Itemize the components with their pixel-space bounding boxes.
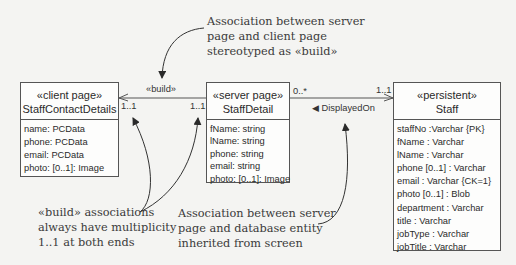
stereotype-label: «server page» — [207, 88, 289, 102]
attribute: email : Varchar {CK=1} — [397, 175, 500, 188]
class-persistent-staff[interactable]: «persistent» Staff staffNo :Varchar {PK}… — [393, 82, 501, 251]
build-multiplicity-server: 1..1 — [190, 101, 206, 111]
attribute-list: name: PCData phone: PCData email: PCData… — [21, 120, 118, 175]
attribute: fName : Varchar — [397, 136, 500, 149]
stereotype-label: «persistent» — [394, 88, 500, 102]
top-note-connector — [162, 28, 204, 78]
attribute: phone: PCData — [24, 136, 118, 149]
note-inherited-association: Association between server page and data… — [178, 206, 336, 251]
attribute: jobType : Varchar — [397, 228, 500, 241]
note-build-stereotype: Association between server page and clie… — [207, 14, 365, 59]
attribute: fName: string — [210, 123, 289, 135]
class-header: «persistent» Staff — [394, 83, 500, 120]
class-header: «server page» StaffDetail — [207, 83, 289, 120]
displayedon-multiplicity-persistent: 1..1 — [376, 85, 392, 95]
class-name: StaffDetail — [207, 102, 289, 116]
attribute: photo [0..1] : Blob — [397, 188, 500, 201]
attribute: lName : Varchar — [397, 149, 500, 162]
attribute: photo: [0..1]: Image — [24, 162, 118, 175]
stereotype-label: «client page» — [21, 88, 118, 102]
attribute-list: staffNo :Varchar {PK} fName : Varchar lN… — [394, 120, 500, 254]
attribute-list: fName: string lName: string phone: strin… — [207, 120, 289, 185]
attribute: email: PCData — [24, 149, 118, 162]
attribute: title : Varchar — [397, 215, 500, 228]
attribute: email: string — [210, 160, 289, 172]
attribute: phone [0..1] : Varchar — [397, 162, 500, 175]
class-name: Staff — [394, 102, 500, 116]
attribute: jobTitle : Varchar — [397, 241, 500, 254]
class-name: StaffContactDetails — [21, 102, 118, 116]
class-header: «client page» StaffContactDetails — [21, 83, 118, 120]
build-multiplicity-client: 1..1 — [121, 101, 137, 111]
attribute: staffNo :Varchar {PK} — [397, 123, 500, 136]
build-association-label: «build» — [146, 84, 176, 94]
bottom-left-note-connector-client — [133, 118, 150, 212]
class-server-page[interactable]: «server page» StaffDetail fName: string … — [206, 82, 290, 183]
note-build-multiplicity: «build» associations always have multipl… — [38, 205, 176, 250]
attribute: photo: [0..1]: Image — [210, 173, 289, 185]
attribute: name: PCData — [24, 123, 118, 136]
class-client-page[interactable]: «client page» StaffContactDetails name: … — [20, 82, 119, 177]
attribute: lName: string — [210, 135, 289, 147]
displayedon-multiplicity-server: 0..* — [293, 86, 307, 96]
attribute: phone: string — [210, 148, 289, 160]
displayedon-association-label: ◀ DisplayedOn — [312, 102, 375, 113]
attribute: department : Varchar — [397, 202, 500, 215]
